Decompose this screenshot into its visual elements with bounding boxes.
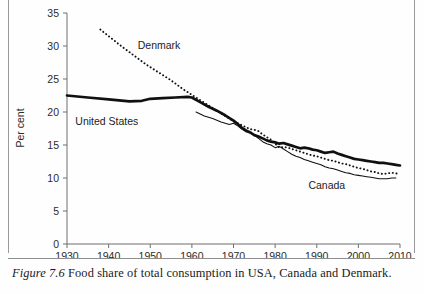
x-tick-label: 1990: [305, 250, 329, 258]
x-axis: 193019401950196019701980199020002010: [55, 244, 412, 258]
caption-label: Figure 7.6: [12, 266, 65, 280]
y-tick-label: 25: [47, 73, 59, 85]
caption-divider: [8, 258, 415, 259]
chart-plot: 05101520253035 1930194019501960197019801…: [0, 0, 424, 258]
annotation-group: DenmarkUnited StatesCanada: [75, 39, 345, 191]
y-tick-label: 35: [47, 7, 59, 19]
x-tick-group: 193019401950196019701980199020002010: [55, 244, 412, 258]
series-line-united-states: [67, 96, 400, 166]
series-group: [67, 30, 400, 179]
y-tick-label: 0: [53, 238, 59, 250]
x-tick-label: 1930: [55, 250, 79, 258]
y-axis-title: Per cent: [14, 108, 26, 147]
series-label-united-states: United States: [75, 115, 138, 127]
y-tick-label: 20: [47, 106, 59, 118]
figure-container: 05101520253035 1930194019501960197019801…: [0, 0, 424, 294]
caption-text: Food share of total consumption in USA, …: [68, 266, 392, 280]
x-tick-label: 1980: [263, 250, 287, 258]
y-axis: 05101520253035: [47, 7, 67, 250]
x-tick-label: 2000: [347, 250, 371, 258]
series-label-canada: Canada: [308, 179, 345, 191]
figure-caption: Figure 7.6 Food share of total consumpti…: [12, 266, 416, 281]
x-tick-label: 1950: [139, 250, 163, 258]
y-tick-label: 10: [47, 172, 59, 184]
x-tick-label: 1970: [222, 250, 246, 258]
y-tick-label: 5: [53, 205, 59, 217]
series-label-denmark: Denmark: [138, 39, 181, 51]
y-tick-label: 15: [47, 139, 59, 151]
x-tick-label: 2010: [388, 250, 412, 258]
x-tick-label: 1940: [97, 250, 121, 258]
x-tick-label: 1960: [180, 250, 204, 258]
series-line-canada: [196, 112, 396, 179]
y-tick-group: 05101520253035: [47, 7, 67, 250]
y-tick-label: 30: [47, 40, 59, 52]
